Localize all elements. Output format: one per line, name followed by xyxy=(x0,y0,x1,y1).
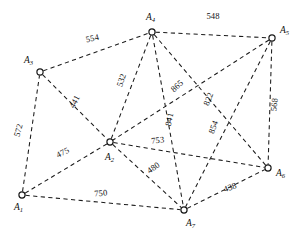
edge-weights-group: 5545485724414757505324807538418658228545… xyxy=(11,11,279,199)
edge-weight-a1-a7: 750 xyxy=(94,187,108,198)
edge-weight-a4-a6: 865 xyxy=(169,78,186,94)
graph-edge-a1-a3 xyxy=(23,76,40,192)
graph-node-a5[interactable] xyxy=(269,35,275,41)
edge-weight-a1-a3: 572 xyxy=(11,122,24,137)
edge-weight-a5-a6: 568 xyxy=(268,97,280,111)
edge-weight-a5-a7: 854 xyxy=(206,119,220,135)
graph-node-a2[interactable] xyxy=(107,139,113,145)
edge-weight-a4-a7: 841 xyxy=(163,112,176,127)
graph-canvas: 5545485724414757505324807538418658228545… xyxy=(0,0,300,237)
graph-node-a6[interactable] xyxy=(265,165,271,171)
graph-figure: 5545485724414757505324807538418658228545… xyxy=(0,0,300,237)
node-label-a3: A3 xyxy=(23,55,34,66)
edge-weight-a2-a7: 480 xyxy=(145,160,162,176)
nodes-group xyxy=(19,29,275,213)
graph-node-a7[interactable] xyxy=(181,207,187,213)
node-label-a7: A7 xyxy=(185,218,196,229)
edge-weight-a2-a6: 753 xyxy=(151,134,165,145)
node-label-a1: A1 xyxy=(13,202,23,213)
node-labels-group: A1A2A3A4A5A6A7 xyxy=(13,12,290,229)
edge-weight-a1-a2: 475 xyxy=(54,145,70,160)
edge-weight-a4-a5: 548 xyxy=(206,11,219,21)
edge-weight-a3-a2: 441 xyxy=(67,93,82,109)
node-label-a6: A6 xyxy=(275,168,286,179)
graph-node-a4[interactable] xyxy=(149,29,155,35)
node-label-a4: A4 xyxy=(145,12,156,23)
graph-node-a1[interactable] xyxy=(19,192,25,198)
edge-weight-a7-a6: 438 xyxy=(222,180,238,194)
graph-edge-a4-a5 xyxy=(156,32,269,38)
edge-weight-a2-a4: 532 xyxy=(114,72,128,88)
graph-edge-a2-a6 xyxy=(114,143,265,168)
node-label-a5: A5 xyxy=(279,25,290,36)
graph-edge-a2-a7 xyxy=(113,144,182,207)
edge-weight-a3-a4: 554 xyxy=(85,32,101,45)
graph-edge-a2-a4 xyxy=(111,35,150,138)
graph-node-a3[interactable] xyxy=(37,69,43,75)
node-label-a2: A2 xyxy=(104,152,115,163)
